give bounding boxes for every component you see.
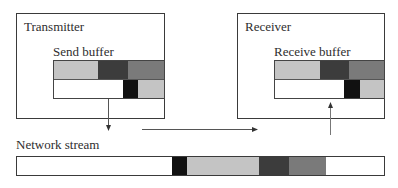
down-arrow-icon bbox=[106, 99, 111, 131]
up-arrow-icon bbox=[328, 102, 333, 135]
right-arrow-icon bbox=[142, 127, 258, 132]
flow-arrows bbox=[0, 0, 398, 188]
